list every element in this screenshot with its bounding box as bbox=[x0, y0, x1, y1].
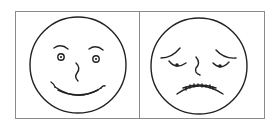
sad-face-icon bbox=[0, 0, 277, 129]
